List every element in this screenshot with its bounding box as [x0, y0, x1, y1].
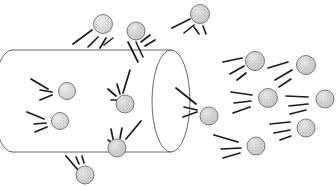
motion-stroke [34, 123, 46, 124]
motion-stroke [82, 156, 84, 163]
motion-stroke [145, 40, 155, 46]
particle [297, 56, 316, 75]
particle [246, 52, 265, 71]
motion-stroke [223, 153, 240, 158]
motion-stroke [270, 122, 290, 124]
motion-stroke [268, 62, 288, 68]
particle-cylinder-figure [0, 0, 336, 191]
particle [94, 15, 113, 34]
particle-highlight [247, 137, 265, 155]
particle [59, 83, 76, 100]
particle [247, 137, 265, 155]
particle-highlight [108, 139, 126, 157]
motion-stroke [286, 96, 308, 97]
particle [108, 139, 126, 157]
motion-stroke [184, 25, 194, 33]
particle [52, 113, 69, 130]
particle [316, 90, 334, 108]
motion-stroke [230, 66, 244, 74]
particle [116, 95, 134, 113]
motion-stroke [275, 70, 292, 80]
motion-stroke [234, 101, 251, 103]
particle-highlight [297, 119, 315, 137]
particle [200, 107, 218, 125]
motion-stroke [172, 19, 190, 28]
particle-highlight [59, 83, 76, 100]
motion-stroke [194, 27, 199, 34]
motion-stroke [73, 30, 92, 44]
motion-stroke [203, 26, 206, 34]
motion-stroke [100, 38, 106, 48]
motion-stroke [231, 92, 252, 95]
particle [297, 119, 315, 137]
particle-highlight [200, 107, 218, 125]
motion-stroke [280, 136, 291, 140]
particle [259, 89, 278, 108]
particle-highlight [52, 113, 69, 130]
motion-stroke [289, 104, 308, 106]
particle-highlight [94, 15, 113, 34]
diagram-canvas [0, 0, 336, 191]
cylinder [0, 50, 190, 152]
motion-stroke [88, 37, 98, 47]
particle-highlight [116, 95, 134, 113]
particle [191, 5, 210, 24]
particle-highlight [297, 56, 316, 75]
motion-stroke [237, 73, 246, 80]
motion-stroke [214, 135, 238, 142]
particle-highlight [259, 89, 278, 108]
particle-highlight [191, 5, 210, 24]
motion-stroke [290, 110, 306, 114]
motion-stroke [233, 107, 250, 113]
particle-highlight [246, 52, 265, 71]
particle-highlight [316, 90, 334, 108]
particle [127, 22, 145, 40]
motion-stroke [223, 58, 242, 62]
motion-stroke [274, 130, 290, 133]
particle [76, 166, 94, 184]
motion-stroke [221, 148, 241, 149]
cylinder-body-fill [0, 50, 190, 152]
particle-highlight [127, 22, 145, 40]
motion-stroke [279, 79, 291, 87]
particle-highlight [76, 166, 94, 184]
motion-stroke [76, 157, 79, 164]
